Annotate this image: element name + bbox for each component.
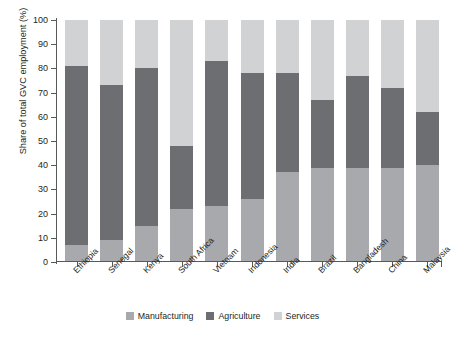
legend-label: Agriculture xyxy=(218,311,260,321)
legend-item-services: Services xyxy=(274,311,320,321)
legend-label: Services xyxy=(286,311,320,321)
x-axis-tick-label: Vietnam xyxy=(211,246,240,275)
x-axis-tick-label: Brazil xyxy=(316,253,338,275)
legend-swatch-icon xyxy=(206,312,214,320)
x-axis-tick-label: Senegal xyxy=(106,246,135,275)
x-axis-tick-label: Indonesia xyxy=(246,242,279,275)
x-axis-tick-label: Kenya xyxy=(141,251,165,275)
legend-item-agriculture: Agriculture xyxy=(206,311,260,321)
x-axis-tick-label: Ethiopia xyxy=(71,246,100,275)
legend-swatch-icon xyxy=(274,312,282,320)
x-axis-tick-label: India xyxy=(281,255,301,275)
x-axis-tick-label: Bangladesh xyxy=(351,236,390,275)
legend-label: Manufacturing xyxy=(138,311,194,321)
legend-swatch-icon xyxy=(126,312,134,320)
chart-legend: ManufacturingAgricultureServices xyxy=(0,311,445,321)
x-axis-tick-label: China xyxy=(386,252,409,275)
x-axis-tick-label: South Africa xyxy=(176,235,216,275)
x-axis-tick-label: Malaysia xyxy=(421,244,452,275)
legend-item-manufacturing: Manufacturing xyxy=(126,311,194,321)
